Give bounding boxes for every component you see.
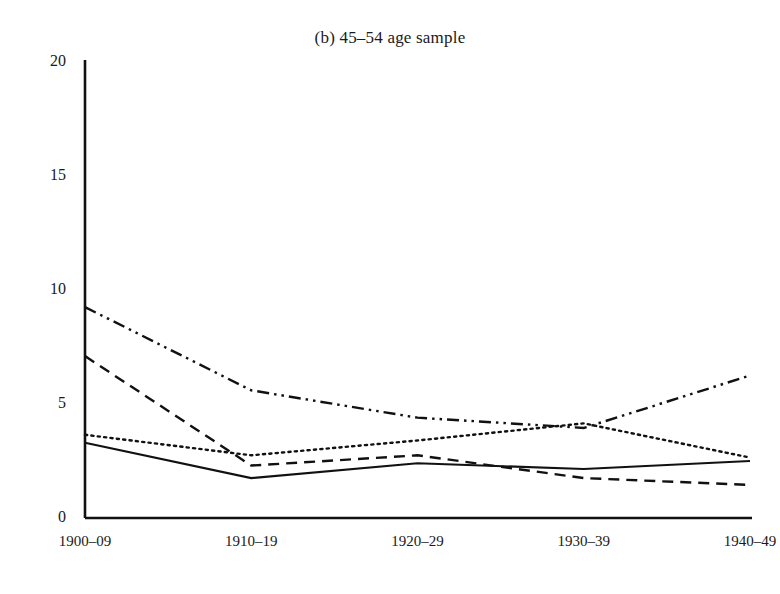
x-tick-label: 1930–39	[524, 534, 644, 549]
line-chart-plot	[0, 0, 780, 594]
y-tick-label: 15	[20, 167, 66, 183]
y-tick-label: 10	[20, 281, 66, 297]
x-tick-label: 1940–49	[690, 534, 780, 549]
chart-series-group	[85, 307, 750, 485]
y-tick-label: 5	[20, 395, 66, 411]
x-tick-label: 1900–09	[25, 534, 145, 549]
y-tick-label: 0	[20, 509, 66, 525]
chart-axes	[85, 60, 752, 518]
x-tick-label: 1920–29	[358, 534, 478, 549]
series-line-solid-series	[85, 443, 750, 478]
series-line-dotted-series	[85, 423, 750, 457]
x-tick-label: 1910–19	[191, 534, 311, 549]
y-tick-label: 20	[20, 53, 66, 69]
series-line-dash-dot-dot-series	[85, 307, 750, 428]
figure-container: (b) 45–54 age sample 05101520 1900–09191…	[0, 0, 780, 594]
